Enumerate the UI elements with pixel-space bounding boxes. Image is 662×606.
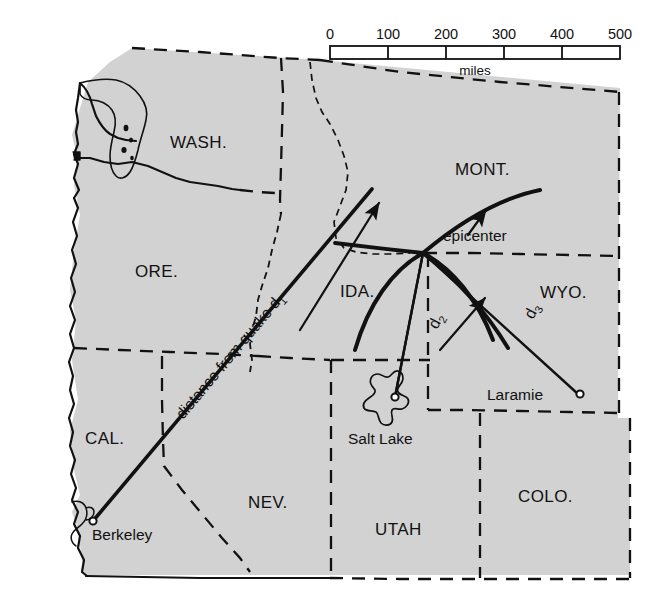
city-label-berkeley: Berkeley <box>92 526 153 543</box>
berkeley-marker <box>89 517 96 524</box>
state-label-mont: MONT. <box>455 160 510 179</box>
columbia-mouth-notch <box>73 152 80 160</box>
scale-tick-label-400: 400 <box>550 26 574 42</box>
state-label-ida: IDA. <box>340 282 375 301</box>
state-label-colo: COLO. <box>518 487 573 506</box>
state-label-nev: NEV. <box>248 493 288 512</box>
state-label-wyo: WYO. <box>540 283 587 302</box>
state-label-utah: UTAH <box>375 520 422 539</box>
earthquake-triangulation-map: 0 100 200 300 400 500 miles WASH. ORE. M… <box>0 0 662 606</box>
map-canvas: 0 100 200 300 400 500 miles WASH. ORE. M… <box>0 0 662 606</box>
annotation-epicenter: epicenter <box>443 227 507 244</box>
scale-bar-outline <box>330 46 620 59</box>
state-label-ore: ORE. <box>135 262 178 281</box>
scale-tick-label-500: 500 <box>608 26 632 42</box>
state-label-cal: CAL. <box>85 429 124 448</box>
laramie-marker <box>576 390 583 397</box>
salt-lake-marker <box>391 393 398 400</box>
southern-border <box>86 576 330 578</box>
border-south-utah-colo <box>330 578 630 579</box>
state-label-wash: WASH. <box>170 133 227 152</box>
scale-tick-label-0: 0 <box>326 26 334 42</box>
scale-unit-label: miles <box>459 63 491 78</box>
city-label-salt-lake: Salt Lake <box>348 430 413 447</box>
scale-tick-label-100: 100 <box>376 26 400 42</box>
scale-tick-label-300: 300 <box>492 26 516 42</box>
scale-tick-label-200: 200 <box>434 26 458 42</box>
city-label-laramie: Laramie <box>487 386 543 403</box>
